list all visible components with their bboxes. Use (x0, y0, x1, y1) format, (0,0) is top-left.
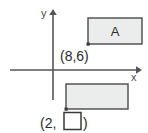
answer-blank-box[interactable] (64, 113, 81, 130)
rectangle-a-vertex-marker (87, 43, 90, 46)
rectangle-b-shape (66, 84, 128, 109)
rectangle-b (65, 84, 129, 111)
lower-point-label-suffix: ) (83, 115, 88, 131)
diagram-canvas: y x A (8,6) (2, ) (0, 0, 148, 133)
rectangle-b-vertex-marker (65, 108, 68, 111)
x-axis-arrowhead (136, 66, 142, 74)
lower-point-label: (2, ) (40, 113, 88, 132)
rectangle-a: A (87, 18, 143, 46)
x-axis-label: x (131, 71, 137, 83)
y-axis (49, 9, 57, 100)
upper-point-label: (8,6) (60, 48, 89, 64)
coordinate-plane-svg: y x A (8,6) (2, ) (0, 0, 148, 133)
x-axis (10, 66, 142, 74)
lower-point-label-prefix: (2, (40, 115, 56, 131)
rectangle-a-label: A (111, 24, 120, 39)
y-axis-label: y (41, 7, 47, 19)
y-axis-arrowhead (49, 9, 57, 15)
